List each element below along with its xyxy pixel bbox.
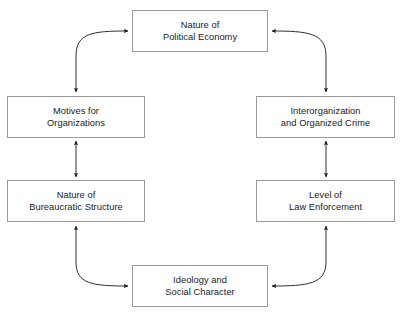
node-law-enforcement-line-2: Law Enforcement xyxy=(289,201,362,213)
diagram-canvas: Motives for Organizations --> Interorgan… xyxy=(0,0,402,316)
node-bureaucratic-line-1: Nature of xyxy=(57,189,96,201)
node-ideology-and-social-character: Ideology and Social Character xyxy=(132,265,268,307)
node-motives-line-2: Organizations xyxy=(47,117,105,129)
node-motives-line-1: Motives for xyxy=(53,105,99,117)
node-political-economy: Nature of Political Economy xyxy=(132,10,268,52)
node-interorganization-line-1: Interorganization xyxy=(290,105,360,117)
edge-law-enforcement-ideology xyxy=(272,226,326,286)
node-political-economy-line-2: Political Economy xyxy=(163,31,237,43)
edge-political-economy-motives xyxy=(76,31,128,92)
node-law-enforcement-line-1: Level of xyxy=(309,189,342,201)
node-ideology-line-1: Ideology and xyxy=(173,274,227,286)
node-level-of-law-enforcement: Level of Law Enforcement xyxy=(256,180,395,222)
node-interorganization-and-organized-crime: Interorganization and Organized Crime xyxy=(256,96,395,138)
edge-bureaucratic-ideology xyxy=(76,226,128,286)
node-political-economy-line-1: Nature of xyxy=(181,19,220,31)
node-bureaucratic-line-2: Bureaucratic Structure xyxy=(29,201,123,213)
node-nature-of-bureaucratic-structure: Nature of Bureaucratic Structure xyxy=(7,180,145,222)
node-motives-for-organizations: Motives for Organizations xyxy=(7,96,145,138)
edge-political-economy-interorganization xyxy=(272,31,326,92)
node-interorganization-line-2: and Organized Crime xyxy=(281,117,370,129)
node-ideology-line-2: Social Character xyxy=(165,286,235,298)
